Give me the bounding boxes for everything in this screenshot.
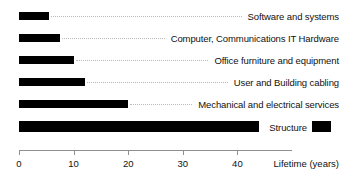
bar-computer-communications-it-hardware <box>19 34 60 42</box>
axis-title: Lifetime (years) <box>274 158 339 169</box>
axis-tick-label: 30 <box>178 158 189 169</box>
leader-line <box>51 16 242 17</box>
bar-office-furniture-and-equipment <box>19 56 74 64</box>
x-axis: 0 10 20 30 40 Lifetime (years) <box>0 150 343 178</box>
row-label: Mechanical and electrical services <box>198 94 339 116</box>
leader-line <box>76 60 209 61</box>
bar-structure <box>19 121 259 132</box>
row-label: Computer, Communications IT Hardware <box>171 28 339 50</box>
chart-row: Office furniture and equipment <box>0 50 343 72</box>
row-label: Software and systems <box>248 6 339 28</box>
chart-row: Mechanical and electrical services <box>0 94 343 116</box>
lifetime-bar-chart: Software and systems Computer, Communica… <box>0 0 343 178</box>
row-label: User and Building cabling <box>234 72 339 94</box>
row-label: Office furniture and equipment <box>214 50 339 72</box>
chart-plot-area: Software and systems Computer, Communica… <box>0 0 343 146</box>
bar-software-and-systems <box>19 12 49 20</box>
leader-line <box>62 38 165 39</box>
bar-user-and-building-cabling <box>19 78 85 86</box>
axis-tick-label: 0 <box>16 158 21 169</box>
leader-line <box>87 82 228 83</box>
chart-row: Computer, Communications IT Hardware <box>0 28 343 50</box>
axis-tick <box>128 150 129 155</box>
leader-line <box>130 104 192 105</box>
axis-tick <box>19 150 20 155</box>
axis-tick-label: 10 <box>68 158 79 169</box>
axis-tick <box>74 150 75 155</box>
axis-line <box>19 150 292 151</box>
axis-tick-label: 20 <box>123 158 134 169</box>
row-label: Structure <box>269 117 307 139</box>
chart-row: User and Building cabling <box>0 72 343 94</box>
bar-structure-continuation <box>312 121 331 132</box>
axis-tick-label: 40 <box>232 158 243 169</box>
chart-row: Structure <box>0 117 343 139</box>
axis-tick <box>237 150 238 155</box>
bar-mechanical-and-electrical-services <box>19 100 128 108</box>
axis-tick <box>183 150 184 155</box>
chart-row: Software and systems <box>0 6 343 28</box>
